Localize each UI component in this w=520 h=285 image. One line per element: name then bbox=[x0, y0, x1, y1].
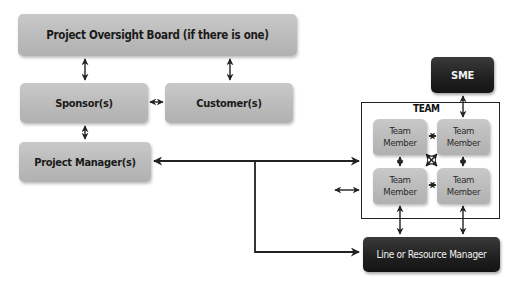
oversight-board-label: Project Oversight Board (if there is one… bbox=[46, 28, 268, 42]
arrow-pm-line-manager bbox=[255, 161, 359, 252]
team-member-node: Team Member bbox=[437, 168, 490, 204]
team-member-label: Team Member bbox=[444, 174, 484, 198]
team-member-node: Team Member bbox=[373, 119, 427, 155]
team-member-node: Team Member bbox=[437, 119, 490, 155]
project-manager-label: Project Manager(s) bbox=[34, 156, 136, 169]
team-member-label: Team Member bbox=[380, 174, 420, 198]
team-member-node: Team Member bbox=[373, 168, 427, 204]
sponsor-label: Sponsor(s) bbox=[55, 97, 113, 110]
oversight-board-node: Project Oversight Board (if there is one… bbox=[18, 14, 297, 56]
line-manager-node: Line or Resource Manager bbox=[363, 237, 500, 272]
project-manager-node: Project Manager(s) bbox=[19, 142, 151, 182]
team-label: TEAM bbox=[413, 103, 440, 114]
sponsor-node: Sponsor(s) bbox=[20, 83, 148, 123]
team-member-label: Team Member bbox=[380, 125, 420, 149]
customer-node: Customer(s) bbox=[165, 83, 293, 123]
customer-label: Customer(s) bbox=[196, 97, 261, 110]
sme-label: SME bbox=[451, 69, 474, 82]
sme-node: SME bbox=[431, 57, 494, 93]
team-member-label: Team Member bbox=[444, 125, 484, 149]
line-manager-label: Line or Resource Manager bbox=[377, 249, 487, 260]
